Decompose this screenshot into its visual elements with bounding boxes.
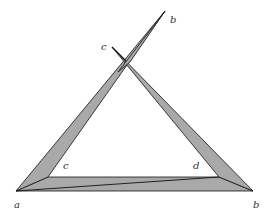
left-band-overlay <box>118 11 165 72</box>
label-top-b: b <box>170 14 176 25</box>
triangle-diagram: a b b c c d <box>0 0 271 221</box>
label-top-c: c <box>101 41 107 52</box>
label-bottom-a: a <box>14 199 20 210</box>
right-edge-extension <box>112 47 126 61</box>
label-inner-c: c <box>63 160 69 171</box>
right-band <box>112 47 253 191</box>
label-inner-d: d <box>193 160 199 171</box>
left-band <box>16 11 165 191</box>
label-bottom-b: b <box>253 199 259 210</box>
